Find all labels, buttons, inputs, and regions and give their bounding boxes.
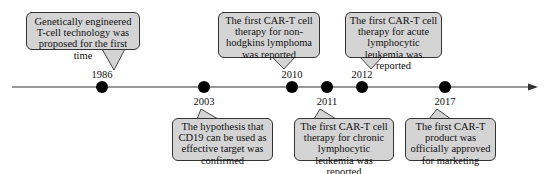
callout-2010: The first CAR-T cell therapy for non-hod… [218,12,320,58]
year-label-2010: 2010 [282,69,303,80]
axis-arrow-icon [528,84,538,91]
year-label-2003: 2003 [194,96,215,107]
pointer-1986 [102,49,125,70]
dot-2010 [286,81,298,93]
dot-1986 [96,81,108,93]
callout-2003: The hypothesis that CD19 can be used as … [172,118,273,161]
dot-2003 [198,81,210,93]
year-label-2011: 2011 [317,96,338,107]
dot-2017 [439,81,451,93]
callout-2017: The first CAR-T product was officially a… [405,118,496,161]
year-label-2017: 2017 [435,96,456,107]
dot-2012 [356,81,368,93]
year-label-1986: 1986 [92,69,113,80]
callout-1986: Genetically engineered T-cell technology… [26,12,140,50]
callout-2011: The first CAR-T cell therapy for chronic… [294,118,394,161]
timeline-diagram: 1986 2003 2010 2011 2012 2017 Geneticall… [0,0,552,174]
year-label-2012: 2012 [352,69,373,80]
dot-2011 [321,81,333,93]
callout-2012: The first CAR-T cell therapy for acute l… [345,12,442,58]
